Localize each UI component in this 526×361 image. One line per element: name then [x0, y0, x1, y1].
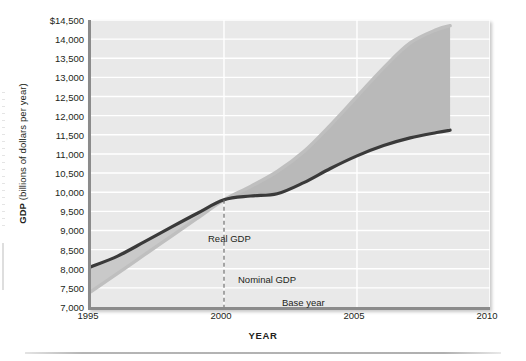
y-tick-label: $14,500: [50, 15, 84, 26]
x-tick-label: 2000: [210, 310, 231, 321]
y-tick-label: 11,500: [56, 129, 84, 140]
gdp-chart-figure: GDP (billions of dollars per year) 7,000…: [0, 0, 526, 361]
page-divider-rule: [25, 352, 501, 354]
y-tick-label: 12,000: [55, 110, 84, 121]
y-tick-label: 13,500: [55, 53, 84, 64]
plot-svg: [91, 20, 490, 307]
annotation-real-gdp: Real GDP: [208, 233, 251, 244]
y-axis-title-rest: [17, 200, 28, 203]
x-tick-label: 2010: [476, 310, 497, 321]
annotation-nominal-gdp: Nominal GDP: [238, 274, 296, 285]
annotation-base-year: Base year: [282, 297, 325, 308]
y-tick-label: 11,000: [56, 148, 84, 159]
y-axis-title-units: (billions of dollars per year): [17, 83, 28, 200]
y-tick-label: 13,000: [55, 72, 84, 83]
y-axis-title: GDP (billions of dollars per year): [17, 59, 28, 249]
y-axis-title-bold: GDP: [17, 203, 28, 224]
y-tick-label: 9,500: [60, 206, 84, 217]
page-edge-artifact: [2, 92, 5, 230]
plot-area: Real GDP Nominal GDP Base year: [88, 20, 490, 310]
y-tick-label: 7,500: [60, 282, 84, 293]
page-edge-bar-artifact: [2, 243, 4, 290]
x-axis-tick-labels: 1995200020052010: [0, 310, 526, 326]
y-tick-label: 9,000: [60, 225, 84, 236]
y-tick-label: 12,500: [55, 91, 84, 102]
y-tick-label: 8,500: [60, 244, 84, 255]
x-axis-title: YEAR: [0, 330, 526, 341]
y-tick-label: 8,000: [60, 263, 84, 274]
x-tick-label: 1995: [77, 310, 98, 321]
x-tick-label: 2005: [343, 310, 364, 321]
y-axis-tick-labels: 7,0007,5008,0008,5009,0009,50010,00010,5…: [34, 0, 84, 361]
y-tick-label: 10,000: [55, 187, 84, 198]
y-tick-label: 10,500: [55, 168, 84, 179]
y-tick-label: 14,000: [55, 34, 84, 45]
